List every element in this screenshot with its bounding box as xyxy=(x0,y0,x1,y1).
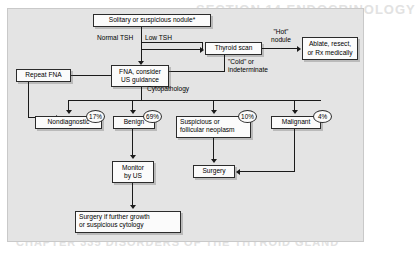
node-malignant-label: Malignant xyxy=(282,118,311,126)
edge-low-tsh-to-scan xyxy=(141,49,201,50)
arrow-into-benign xyxy=(130,110,136,114)
node-surgery-growth-line2: or suspicious cytology xyxy=(79,221,144,229)
edge-tsh-split-bar xyxy=(141,42,203,43)
edge-label-cold-line2: indeterminate xyxy=(228,66,268,74)
node-surgery: Surgery xyxy=(193,165,235,178)
arrow-into-surgery-growth xyxy=(130,205,136,209)
percent-suspicious: 10% xyxy=(238,110,257,123)
node-surgery-label: Surgery xyxy=(202,167,225,175)
node-monitor-by-us: Monitor by US xyxy=(112,161,154,183)
node-suspicious-line2: follicular neoplasm xyxy=(180,126,235,134)
node-fna-line1: FNA, consider xyxy=(119,68,161,76)
arrow-into-malignant xyxy=(292,110,298,114)
edge-label-cold-line1: "Cold" or xyxy=(228,58,254,66)
percent-nondiagnostic: 17% xyxy=(86,110,105,123)
edge-normal-tsh-down xyxy=(141,42,142,62)
edge-repeat-fna-down xyxy=(28,82,29,118)
edge-label-low-tsh: Low TSH xyxy=(145,34,172,42)
edge-malignant-down xyxy=(294,129,295,172)
node-ablate-resect: Ablate, resect, or Rx medically xyxy=(302,37,358,60)
arrow-low-tsh-into-scan xyxy=(200,47,204,53)
percent-malignant: 4% xyxy=(313,110,332,123)
node-solitary-nodule-label: Solitary or suspicious nodule* xyxy=(109,16,196,24)
node-solitary-nodule: Solitary or suspicious nodule* xyxy=(93,14,211,27)
node-benign-label: Benign xyxy=(124,118,145,126)
node-fna-line2: US guidance xyxy=(121,76,159,84)
node-nondiagnostic-label: Nondiagnostic xyxy=(48,118,90,126)
node-thyroid-scan-label: Thyroid scan xyxy=(215,44,253,52)
arrow-into-suspicious xyxy=(211,110,217,114)
edge-label-hot-nodule-line1: "Hot" xyxy=(266,28,296,36)
node-ablate-line1: Ablate, resect, xyxy=(309,40,351,48)
node-monitor-line1: Monitor xyxy=(122,164,144,172)
edge-cytopathology-bar xyxy=(68,100,321,101)
edge-label-normal-tsh: Normal TSH xyxy=(97,34,133,42)
node-repeat-fna: Repeat FNA xyxy=(16,69,71,82)
edge-hot-nodule xyxy=(262,48,299,49)
arrow-malignant-into-surgery xyxy=(236,169,240,175)
edge-fna-to-cytopathology xyxy=(141,87,142,101)
edge-label-cytopathology: Cytopathology xyxy=(147,85,189,93)
node-surgery-if-growth: Surgery if further growth or suspicious … xyxy=(75,211,181,233)
edge-benign-to-monitor xyxy=(132,129,133,157)
flowchart-panel: Solitary or suspicious nodule* Normal TS… xyxy=(7,8,364,242)
arrow-into-monitor xyxy=(130,155,136,159)
edge-nodule-stem xyxy=(141,27,142,43)
arrow-suspicious-into-surgery xyxy=(211,159,217,163)
node-ablate-line2: or Rx medically xyxy=(307,49,352,57)
node-fna: FNA, consider US guidance xyxy=(111,65,169,87)
edge-malignant-left xyxy=(240,171,295,172)
node-repeat-fna-label: Repeat FNA xyxy=(25,71,61,79)
node-thyroid-scan: Thyroid scan xyxy=(205,42,262,55)
edge-cold-down xyxy=(224,55,225,72)
edge-label-hot-nodule-line2: nodule xyxy=(266,36,296,44)
node-monitor-line2: by US xyxy=(124,172,142,180)
arrow-hot-into-ablate xyxy=(297,46,301,52)
arrow-into-nondiagnostic xyxy=(66,110,72,114)
edge-suspicious-to-surgery xyxy=(213,138,214,161)
node-surgery-growth-line1: Surgery if further growth xyxy=(79,213,150,221)
percent-benign: 69% xyxy=(143,110,162,123)
edge-monitor-to-surgery-growth xyxy=(132,183,133,207)
node-suspicious-line1: Suspicious or xyxy=(180,118,220,126)
